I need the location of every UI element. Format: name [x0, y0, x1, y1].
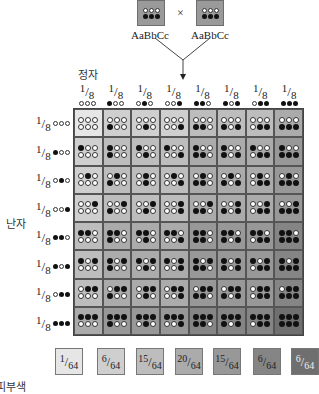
- dark-allele-icon: [171, 173, 177, 179]
- light-allele-icon: [59, 150, 64, 155]
- offspring-cell: [217, 166, 246, 194]
- light-allele-icon: [121, 173, 127, 179]
- allele-dots: [107, 180, 127, 186]
- light-allele-icon: [53, 121, 58, 126]
- egg-gamete-header: 1/8: [36, 114, 70, 133]
- allele-dots: [136, 265, 156, 271]
- light-allele-icon: [229, 101, 234, 106]
- light-allele-icon: [164, 152, 170, 158]
- sperm-gamete-header: 1/8: [246, 82, 274, 106]
- allele-dots: [164, 152, 184, 158]
- dark-allele-icon: [279, 237, 285, 243]
- fraction: 6/64: [258, 353, 276, 371]
- light-allele-icon: [250, 265, 256, 271]
- light-allele-icon: [171, 101, 176, 106]
- dark-allele-icon: [286, 152, 292, 158]
- light-allele-icon: [235, 145, 241, 151]
- sperm-label: 정자: [78, 66, 98, 82]
- dark-allele-icon: [59, 292, 64, 297]
- light-allele-icon: [293, 173, 299, 179]
- fraction: 1/8: [131, 82, 159, 101]
- light-allele-icon: [228, 180, 234, 186]
- egg-gamete-header: 1/8: [36, 143, 70, 162]
- dark-allele-icon: [149, 14, 154, 19]
- allele-dots: [279, 286, 299, 292]
- light-allele-icon: [250, 124, 256, 130]
- light-allele-icon: [207, 117, 213, 123]
- dark-allele-icon: [136, 314, 142, 320]
- dark-allele-icon: [193, 124, 199, 130]
- dark-allele-icon: [114, 230, 120, 236]
- dark-allele-icon: [143, 321, 149, 327]
- light-allele-icon: [257, 258, 263, 264]
- light-allele-icon: [121, 230, 127, 236]
- sperm-gamete-header: 1/8: [189, 82, 217, 106]
- dark-allele-icon: [264, 208, 270, 214]
- dark-allele-icon: [59, 178, 64, 183]
- allele-dots: [189, 101, 217, 106]
- dark-allele-icon: [136, 230, 142, 236]
- light-allele-icon: [264, 117, 270, 123]
- offspring-cell: [131, 307, 160, 335]
- light-allele-icon: [200, 201, 206, 207]
- allele-dots: [221, 293, 241, 299]
- allele-dots: [78, 314, 98, 320]
- dark-allele-icon: [223, 101, 228, 106]
- light-allele-icon: [143, 117, 149, 123]
- dark-allele-icon: [85, 230, 91, 236]
- offspring-cell: [189, 279, 218, 307]
- dark-allele-icon: [235, 237, 241, 243]
- light-allele-icon: [136, 321, 142, 327]
- dark-allele-icon: [228, 230, 234, 236]
- offspring-cell: [246, 194, 275, 222]
- offspring-cell: [246, 250, 275, 278]
- allele-dots: [221, 230, 241, 236]
- dark-allele-icon: [293, 293, 299, 299]
- offspring-cell: [189, 307, 218, 335]
- offspring-cell: [217, 137, 246, 165]
- allele-dots: [78, 152, 98, 158]
- dark-allele-icon: [155, 14, 160, 19]
- dark-allele-icon: [293, 286, 299, 292]
- dark-allele-icon: [193, 321, 199, 327]
- dark-allele-icon: [78, 314, 84, 320]
- fraction: 6/64: [102, 353, 120, 371]
- dark-allele-icon: [214, 14, 219, 19]
- offspring-cell: [160, 307, 189, 335]
- offspring-cell: [160, 194, 189, 222]
- allele-dots: [279, 321, 299, 327]
- allele-dots: [193, 180, 213, 186]
- dark-allele-icon: [65, 264, 70, 269]
- offspring-cell: [217, 222, 246, 250]
- allele-dots: [221, 152, 241, 158]
- light-allele-icon: [200, 117, 206, 123]
- fraction: 20/64: [177, 353, 200, 371]
- light-allele-icon: [202, 8, 207, 13]
- light-allele-icon: [136, 173, 142, 179]
- dark-allele-icon: [221, 124, 227, 130]
- allele-dots: [221, 286, 241, 292]
- dark-allele-icon: [107, 145, 113, 151]
- dark-allele-icon: [257, 208, 263, 214]
- light-allele-icon: [164, 180, 170, 186]
- offspring-cell: [74, 307, 103, 335]
- dark-allele-icon: [143, 180, 149, 186]
- dark-allele-icon: [200, 293, 206, 299]
- light-allele-icon: [114, 208, 120, 214]
- light-allele-icon: [150, 208, 156, 214]
- offspring-cell: [274, 307, 303, 335]
- dark-allele-icon: [264, 321, 270, 327]
- light-allele-icon: [78, 117, 84, 123]
- allele-dots: [136, 145, 156, 151]
- allele-dots: [53, 321, 70, 326]
- light-allele-icon: [257, 145, 263, 151]
- light-allele-icon: [85, 152, 91, 158]
- light-allele-icon: [235, 117, 241, 123]
- light-allele-icon: [136, 152, 142, 158]
- offspring-cell: [74, 250, 103, 278]
- allele-dots: [78, 286, 98, 292]
- allele-dots: [107, 145, 127, 151]
- allele-dots: [250, 117, 270, 123]
- dark-allele-icon: [264, 286, 270, 292]
- allele-dots: [193, 314, 213, 320]
